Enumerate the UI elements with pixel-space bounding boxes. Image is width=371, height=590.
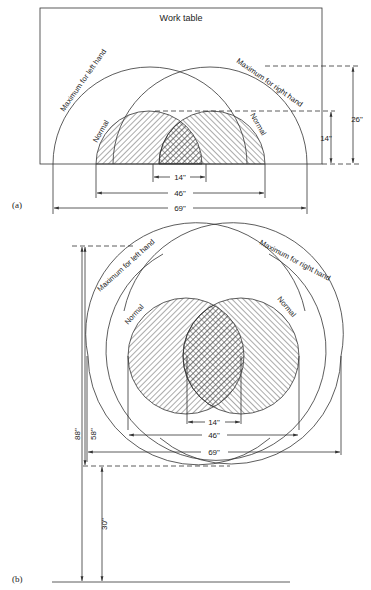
dim-69: 69" [174,204,186,213]
figure-b-label: (b) [12,574,23,584]
work-table-label: Work table [160,13,203,23]
workspace-diagram: Work table (a) 14" 46" 69" 14" 26" Maxim… [0,0,371,590]
dim-14h: 14" [320,134,332,143]
dim-b-69: 69" [208,448,220,457]
figure-a-label: (a) [12,200,22,210]
dim-b-46: 46" [208,431,220,440]
dim-26: 26" [351,115,363,124]
dim-b-14: 14" [208,418,220,427]
dim-b-58: 58" [89,428,98,440]
figure-a [40,8,360,214]
dim-14w: 14" [174,173,186,182]
max-right-label: Maximum for right hand [235,56,305,109]
dim-46: 46" [174,189,186,198]
dim-b-30: 30" [100,518,109,530]
dim-b-88: 88" [73,428,82,440]
figure-b [52,223,343,582]
b-max-left-label: Maximum for left hand [95,237,156,293]
b-max-right-label: Maximum for right hand [258,238,332,283]
